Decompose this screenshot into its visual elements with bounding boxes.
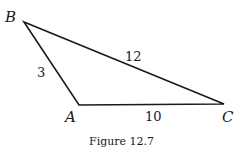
side-label-ac: 10 (145, 109, 162, 124)
triangle-figure: B A C 3 12 10 Figure 12.7 (0, 0, 244, 158)
side-label-ab: 3 (37, 65, 45, 80)
vertex-label-b: B (4, 8, 16, 26)
figure-caption: Figure 12.7 (89, 135, 154, 148)
triangle-abc (24, 22, 224, 105)
side-label-bc: 12 (125, 49, 142, 64)
vertex-label-c: C (222, 108, 234, 126)
vertex-label-a: A (63, 108, 76, 126)
